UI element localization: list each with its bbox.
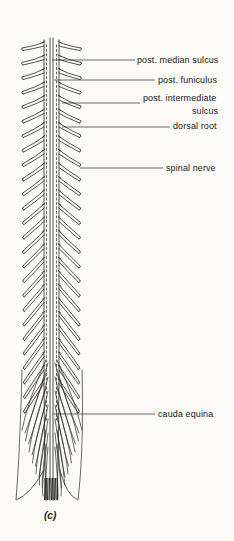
label-post-median-sulcus: post. median sulcus: [137, 55, 218, 66]
label-spinal-nerve: spinal nerve: [166, 163, 216, 174]
label-post-intermediate: post. intermediate: [143, 93, 216, 104]
label-dorsal-root: dorsal root: [173, 121, 217, 132]
label-sulcus: sulcus: [192, 106, 218, 117]
left-spinal-nerves: [21, 41, 45, 413]
figure-caption: (c): [44, 510, 56, 521]
leader-lines: [52, 60, 170, 414]
label-cauda-equina: cauda equina: [158, 409, 213, 420]
label-post-funiculus: post. funiculus: [158, 75, 217, 86]
right-spinal-nerves: [58, 41, 82, 413]
filum-terminale: [45, 478, 58, 500]
